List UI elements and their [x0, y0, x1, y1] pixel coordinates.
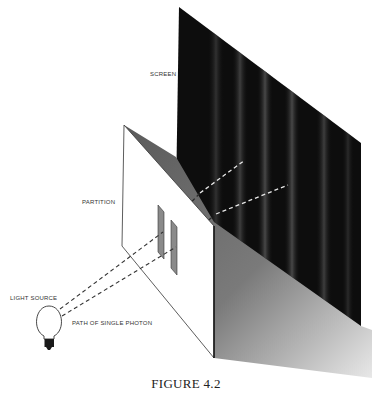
screen-label: SCREEN [150, 71, 176, 77]
slit-1 [158, 205, 164, 259]
figure-caption: FIGURE 4.2 [0, 376, 372, 392]
partition-label: PARTITION [82, 199, 115, 205]
light-bulb-icon [37, 306, 62, 350]
light-source-label: LIGHT SOURCE [10, 295, 57, 301]
photon-path-label: PATH OF SINGLE PHOTON [72, 320, 152, 326]
diagram-canvas [0, 0, 372, 394]
double-slit-figure: SCREEN PARTITION LIGHT SOURCE PATH OF SI… [0, 0, 372, 394]
